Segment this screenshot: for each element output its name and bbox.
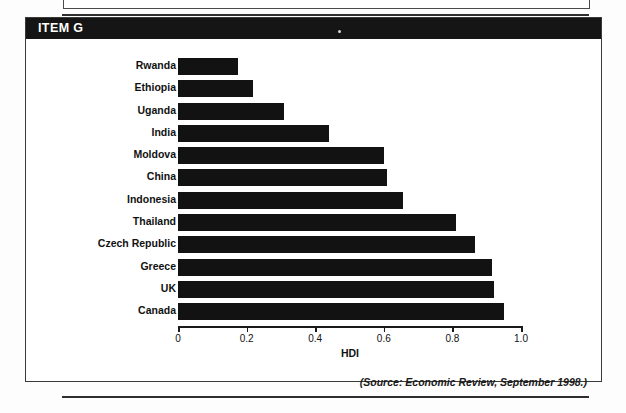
bar-track xyxy=(178,192,521,209)
x-axis-tick-label: 0.8 xyxy=(445,333,459,344)
bar-category-label: Greece xyxy=(16,260,176,272)
bar-row: UK xyxy=(26,281,601,303)
item-header-bar: ITEM G xyxy=(26,18,601,39)
bar-category-label: Thailand xyxy=(16,215,176,227)
bar-category-label: Ethiopia xyxy=(16,81,176,93)
bar-fill xyxy=(178,169,387,186)
bar-row: Greece xyxy=(26,259,601,281)
item-header-label: ITEM G xyxy=(38,21,83,35)
bar-track xyxy=(178,125,521,142)
bar-row: India xyxy=(26,125,601,147)
bar-track xyxy=(178,169,521,186)
bar-row: Czech Republic xyxy=(26,236,601,258)
bar-category-label: Indonesia xyxy=(16,193,176,205)
bar-category-label: India xyxy=(16,126,176,138)
bar-row: Indonesia xyxy=(26,192,601,214)
bar-track xyxy=(178,80,521,97)
x-axis-tick xyxy=(384,326,386,332)
bar-fill xyxy=(178,80,253,97)
bar-row: Uganda xyxy=(26,103,601,125)
bar-track xyxy=(178,214,521,231)
bar-fill xyxy=(178,58,238,75)
source-note: (Source: Economic Review, September 1998… xyxy=(360,376,587,388)
bar-track xyxy=(178,147,521,164)
bar-track xyxy=(178,103,521,120)
x-axis-tick xyxy=(247,326,249,332)
bar-track xyxy=(178,58,521,75)
bar-row: Moldova xyxy=(26,147,601,169)
page-scan: ITEM G RwandaEthiopiaUgandaIndiaMoldovaC… xyxy=(0,0,626,413)
hdi-bar-chart: RwandaEthiopiaUgandaIndiaMoldovaChinaInd… xyxy=(26,39,601,383)
item-g-panel: ITEM G RwandaEthiopiaUgandaIndiaMoldovaC… xyxy=(25,17,602,382)
x-axis-tick xyxy=(178,326,180,332)
bar-track xyxy=(178,303,521,320)
bar-category-label: Moldova xyxy=(16,148,176,160)
bar-category-label: UK xyxy=(16,282,176,294)
x-axis-tick-label: 1.0 xyxy=(514,333,528,344)
bar-category-label: Canada xyxy=(16,304,176,316)
bar-category-label: China xyxy=(16,170,176,182)
bar-category-label: Rwanda xyxy=(16,59,176,71)
bar-track xyxy=(178,236,521,253)
bar-row: Ethiopia xyxy=(26,80,601,102)
page-rule-top xyxy=(62,14,589,16)
bar-fill xyxy=(178,147,384,164)
x-axis-line xyxy=(178,326,522,328)
x-axis-tick xyxy=(315,326,317,332)
bar-fill xyxy=(178,125,329,142)
bar-track xyxy=(178,281,521,298)
bar-fill xyxy=(178,281,494,298)
x-axis-tick xyxy=(521,326,523,332)
page-rule-bottom xyxy=(62,396,589,398)
bar-series: RwandaEthiopiaUgandaIndiaMoldovaChinaInd… xyxy=(26,58,601,326)
bar-fill xyxy=(178,303,504,320)
x-axis-tick-label: 0.4 xyxy=(308,333,322,344)
bar-fill xyxy=(178,259,492,276)
x-axis-tick-label: 0.2 xyxy=(240,333,254,344)
bar-category-label: Czech Republic xyxy=(16,237,176,249)
x-axis-title: HDI xyxy=(178,347,522,359)
bar-fill xyxy=(178,214,456,231)
previous-item-box-remnant xyxy=(63,0,590,9)
x-axis-tick-label: 0 xyxy=(175,333,181,344)
bar-row: Thailand xyxy=(26,214,601,236)
bar-category-label: Uganda xyxy=(16,104,176,116)
bar-fill xyxy=(178,192,403,209)
x-axis-tick-label: 0.6 xyxy=(377,333,391,344)
bar-fill xyxy=(178,236,475,253)
bar-fill xyxy=(178,103,284,120)
bar-row: Canada xyxy=(26,303,601,325)
bar-row: Rwanda xyxy=(26,58,601,80)
scan-speck xyxy=(338,30,341,33)
x-axis-tick xyxy=(452,326,454,332)
bar-track xyxy=(178,259,521,276)
bar-row: China xyxy=(26,169,601,191)
